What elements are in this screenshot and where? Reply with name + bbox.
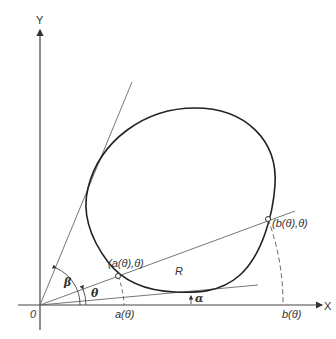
a-point-label: (a(θ),θ) <box>108 257 144 269</box>
theta-angle-arc <box>83 289 86 305</box>
a-theta-arc <box>118 276 124 305</box>
theta-label: θ <box>91 287 99 300</box>
region-label: R <box>175 265 183 277</box>
beta-ray <box>40 82 132 305</box>
b-point-label: (b(θ),θ) <box>272 217 308 229</box>
point-a-theta <box>116 274 121 279</box>
alpha-label: α <box>195 292 204 305</box>
beta-label: β <box>63 276 72 289</box>
origin-label: 0 <box>30 308 37 320</box>
b-theta-arc <box>268 219 283 305</box>
b-theta-axis-label: b(θ) <box>282 308 302 320</box>
point-b-theta <box>266 217 271 222</box>
y-axis-label: Y <box>36 14 44 26</box>
a-theta-axis-label: a(θ) <box>115 308 135 320</box>
x-axis-label: X <box>324 300 332 312</box>
polar-region-diagram: Y X 0 R β θ α (a(θ),θ) (b(θ),θ) a(θ) b(θ… <box>0 0 336 339</box>
